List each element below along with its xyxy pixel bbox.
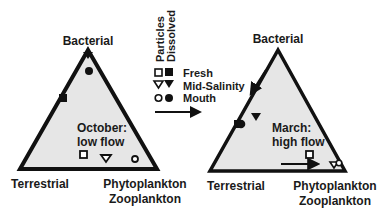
legend-label-fresh: Fresh bbox=[183, 67, 213, 79]
panel-subtitle-october: low flow bbox=[77, 135, 125, 149]
legend-filled-circle-icon bbox=[165, 94, 173, 102]
legend-label-mid-salinity: Mid-Salinity bbox=[183, 80, 246, 92]
panel-march: Bacterial Terrestrial Phytoplankton Zoop… bbox=[207, 32, 377, 208]
open-circle-marker bbox=[132, 156, 138, 162]
legend-open-triangle-icon bbox=[154, 81, 163, 88]
open-square-marker bbox=[306, 151, 313, 158]
legend-filled-triangle-icon bbox=[164, 80, 174, 88]
open-square-marker bbox=[80, 151, 87, 158]
legend-open-circle-icon bbox=[155, 95, 162, 102]
filled-circle-marker bbox=[237, 120, 246, 129]
legend-label-mouth: Mouth bbox=[183, 92, 216, 104]
vertex-label-phytoplankton: Phytoplankton bbox=[293, 179, 376, 193]
open-circle-marker bbox=[336, 160, 342, 166]
panel-title-october: October: bbox=[77, 121, 127, 135]
vertex-label-terrestrial: Terrestrial bbox=[207, 179, 265, 193]
legend-filled-square-icon bbox=[165, 68, 173, 76]
vertex-label-zooplankton: Zooplankton bbox=[299, 194, 371, 208]
panel-subtitle-march: high flow bbox=[272, 135, 325, 149]
vertex-label-zooplankton: Zooplankton bbox=[109, 192, 181, 206]
ternary-diagram: Bacterial Terrestrial Phytoplankton Zoop… bbox=[0, 0, 389, 216]
vertex-label-terrestrial: Terrestrial bbox=[11, 177, 69, 191]
filled-square-marker bbox=[59, 94, 67, 102]
filled-circle-marker bbox=[85, 67, 93, 75]
panel-title-march: March: bbox=[272, 121, 311, 135]
ternary-triangle-march bbox=[210, 50, 345, 171]
vertex-label-bacterial: Bacterial bbox=[253, 32, 304, 46]
legend-header-dissolved: Dissolved bbox=[165, 10, 177, 62]
vertex-label-bacterial: Bacterial bbox=[63, 34, 114, 48]
vertex-label-phytoplankton: Phytoplankton bbox=[103, 177, 186, 191]
legend: Particles Dissolved Fresh Mid-Salinity M… bbox=[154, 10, 246, 112]
legend-open-square-icon bbox=[155, 69, 162, 76]
